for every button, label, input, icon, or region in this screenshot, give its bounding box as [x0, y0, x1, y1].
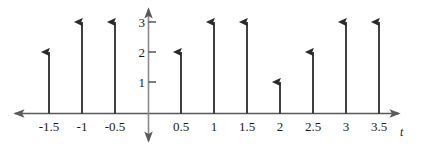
impulse-train-figure: -1.5 -1 -0.5 0.5 1 1.5 2 2.5 3 3.5 3 2 1… [0, 0, 424, 152]
x-tick-label: 3.5 [371, 120, 387, 133]
x-tick-label: -1 [77, 120, 88, 133]
y-axis-ticks [149, 22, 157, 82]
y-tick-label: 2 [133, 46, 145, 59]
axes-group [15, 9, 399, 141]
x-tick-label: -1.5 [39, 120, 60, 133]
y-tick-label: 1 [133, 76, 145, 89]
impulse-stems [49, 22, 379, 114]
x-tick-label: -0.5 [105, 120, 126, 133]
y-tick-label: 3 [133, 16, 145, 29]
x-tick-label: 0.5 [173, 120, 189, 133]
x-axis-label: t [400, 126, 403, 138]
x-tick-label: 2.5 [305, 120, 321, 133]
x-tick-label: 1.5 [239, 120, 255, 133]
x-tick-label: 3 [343, 120, 350, 133]
x-tick-label: 2 [277, 120, 284, 133]
x-tick-label: 1 [211, 120, 218, 133]
